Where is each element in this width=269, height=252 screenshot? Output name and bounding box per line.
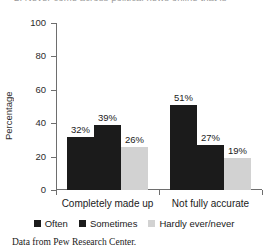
bar-value-label: 32% bbox=[63, 124, 98, 135]
legend-swatch-icon bbox=[79, 220, 86, 227]
legend-item: Hardly ever/never bbox=[148, 218, 234, 229]
legend-swatch-icon bbox=[34, 220, 41, 227]
bar-value-label: 19% bbox=[220, 145, 255, 156]
y-axis-tick-label: 40 bbox=[16, 118, 46, 128]
bar-chart-figure: Percentage 020406080100 32%39%26%51%27%1… bbox=[0, 0, 268, 252]
bar bbox=[121, 147, 148, 190]
x-axis-group-label: Not fully accurate bbox=[141, 198, 269, 210]
y-axis-tick-label: 20 bbox=[16, 152, 46, 162]
legend-label: Often bbox=[45, 218, 68, 229]
bar bbox=[170, 105, 197, 190]
y-axis-title: Percentage bbox=[2, 72, 16, 160]
bar-value-label: 39% bbox=[90, 112, 125, 123]
source-caption: Data from Pew Research Center. bbox=[12, 236, 136, 248]
bar-value-label: 27% bbox=[193, 132, 228, 143]
bar-value-label: 26% bbox=[117, 134, 152, 145]
bar bbox=[224, 158, 251, 190]
x-axis-tick bbox=[56, 190, 57, 195]
chart-legend: OftenSometimesHardly ever/never bbox=[0, 216, 268, 230]
y-axis-tick-label: 60 bbox=[16, 85, 46, 95]
legend-label: Sometimes bbox=[90, 218, 138, 229]
legend-swatch-icon bbox=[148, 220, 155, 227]
y-axis-tick-label: 80 bbox=[16, 51, 46, 61]
bar bbox=[67, 137, 94, 190]
x-axis-tick bbox=[262, 190, 263, 195]
legend-item: Sometimes bbox=[79, 218, 138, 229]
y-axis-tick-label: 100 bbox=[16, 18, 46, 28]
y-axis-tick-label: 0 bbox=[16, 185, 46, 195]
legend-item: Often bbox=[34, 218, 68, 229]
x-axis-tick bbox=[159, 190, 160, 195]
plot-area: 32%39%26%51%27%19% bbox=[56, 23, 262, 190]
bar-value-label: 51% bbox=[166, 92, 201, 103]
legend-label: Hardly ever/never bbox=[159, 218, 234, 229]
